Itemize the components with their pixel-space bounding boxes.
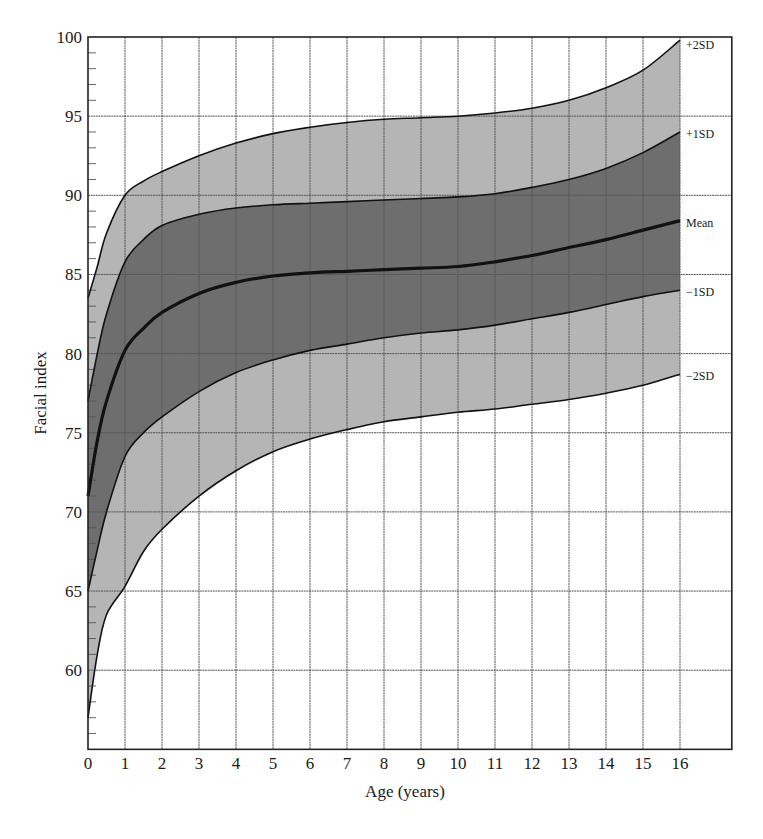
y-tick-label: 70: [65, 503, 82, 522]
x-tick-label: 1: [121, 754, 130, 773]
y-tick-label: 75: [65, 424, 82, 443]
x-tick-label: 5: [269, 754, 278, 773]
x-tick-label: 14: [598, 754, 616, 773]
curve-label: +1SD: [686, 127, 714, 141]
y-tick-label: 65: [65, 582, 82, 601]
x-tick-label: 16: [672, 754, 689, 773]
x-tick-label: 9: [417, 754, 426, 773]
y-axis-tick-labels: 6065707580859095100: [57, 28, 83, 680]
y-axis-title: Facial index: [31, 351, 50, 435]
x-tick-label: 15: [635, 754, 652, 773]
x-tick-label: 11: [487, 754, 503, 773]
curve-labels: +2SD+1SDMean−1SD−2SD: [686, 38, 714, 383]
x-tick-label: 6: [306, 754, 315, 773]
x-tick-label: 2: [158, 754, 167, 773]
x-tick-label: 12: [524, 754, 541, 773]
x-axis-title: Age (years): [365, 782, 445, 801]
curve-label: −1SD: [686, 285, 714, 299]
curve-label: +2SD: [686, 38, 714, 52]
curve-label: −2SD: [686, 369, 714, 383]
facial-index-growth-chart: 012345678910111213141516 606570758085909…: [0, 0, 763, 839]
x-tick-label: 3: [195, 754, 204, 773]
curve-label: Mean: [686, 216, 713, 230]
y-tick-label: 90: [65, 186, 82, 205]
x-tick-label: 13: [561, 754, 578, 773]
x-tick-label: 7: [343, 754, 352, 773]
y-tick-label: 95: [65, 107, 82, 126]
x-tick-label: 0: [84, 754, 93, 773]
x-tick-label: 4: [232, 754, 241, 773]
y-tick-label: 60: [65, 661, 82, 680]
x-axis-tick-labels: 012345678910111213141516: [84, 754, 689, 773]
x-tick-label: 8: [380, 754, 389, 773]
y-tick-label: 80: [65, 345, 82, 364]
y-tick-label: 100: [57, 28, 83, 47]
x-tick-label: 10: [450, 754, 467, 773]
y-tick-label: 85: [65, 265, 82, 284]
